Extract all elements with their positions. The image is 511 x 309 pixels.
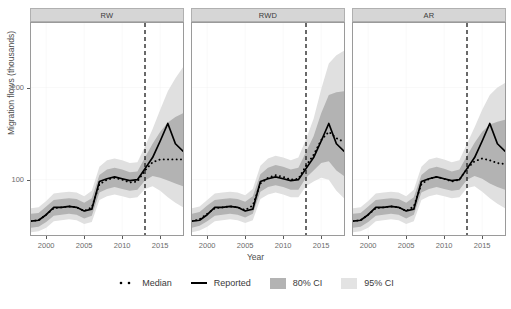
x-tick-mark: [46, 236, 47, 239]
x-tick-mark: [482, 236, 483, 239]
legend-item-80-ci: 80% CI: [268, 277, 323, 289]
x-tick-label: 2015: [313, 242, 330, 250]
legend-item-95-ci: 95% CI: [339, 277, 394, 289]
facet-strip-label: AR: [352, 8, 506, 22]
x-tick-label: 2005: [237, 242, 254, 250]
legend-label: 80% CI: [293, 278, 323, 288]
legend-label: Reported: [214, 278, 251, 288]
facet-panel-rwd: RWD: [191, 8, 345, 236]
x-tick-label: 2015: [474, 242, 491, 250]
legend-item-median: Median: [117, 277, 172, 289]
x-tick-label: 2005: [76, 242, 93, 250]
legend-item-reported: Reported: [189, 277, 251, 289]
y-tick-label: 200: [0, 84, 24, 92]
x-tick-label: 2005: [398, 242, 415, 250]
facet-panel-ar: AR: [352, 8, 506, 236]
x-tick-mark: [368, 236, 369, 239]
legend-solid-line-icon: [189, 277, 209, 289]
x-tick-label: 2000: [360, 242, 377, 250]
chart-legend: MedianReported80% CI95% CI: [0, 277, 511, 289]
x-tick-mark: [122, 236, 123, 239]
x-tick-label: 2010: [436, 242, 453, 250]
facet-strip-label: RWD: [191, 8, 345, 22]
legend-swatch-icon: [268, 277, 288, 289]
x-tick-mark: [207, 236, 208, 239]
x-tick-mark: [321, 236, 322, 239]
x-axis-title: Year: [0, 252, 511, 262]
x-tick-mark: [160, 236, 161, 239]
legend-label: Median: [142, 278, 172, 288]
x-tick-mark: [245, 236, 246, 239]
x-tick-label: 2000: [199, 242, 216, 250]
plot-area: [30, 22, 184, 236]
migration-flows-facet-chart: Migration flows (thousands) Year 100200 …: [0, 0, 511, 309]
plot-area: [191, 22, 345, 236]
x-tick-mark: [283, 236, 284, 239]
legend-label: 95% CI: [364, 278, 394, 288]
legend-swatch-icon: [339, 277, 359, 289]
x-tick-label: 2010: [275, 242, 292, 250]
x-tick-mark: [406, 236, 407, 239]
legend-color-swatch: [341, 278, 357, 289]
facet-strip-label: RW: [30, 8, 184, 22]
y-tick-label: 100: [0, 176, 24, 184]
x-tick-label: 2000: [38, 242, 55, 250]
x-tick-label: 2015: [152, 242, 169, 250]
facet-panel-rw: RW: [30, 8, 184, 236]
plot-area: [352, 22, 506, 236]
x-tick-label: 2010: [114, 242, 131, 250]
x-tick-mark: [84, 236, 85, 239]
x-tick-mark: [444, 236, 445, 239]
legend-dotted-line-icon: [117, 277, 137, 289]
legend-color-swatch: [270, 278, 286, 289]
